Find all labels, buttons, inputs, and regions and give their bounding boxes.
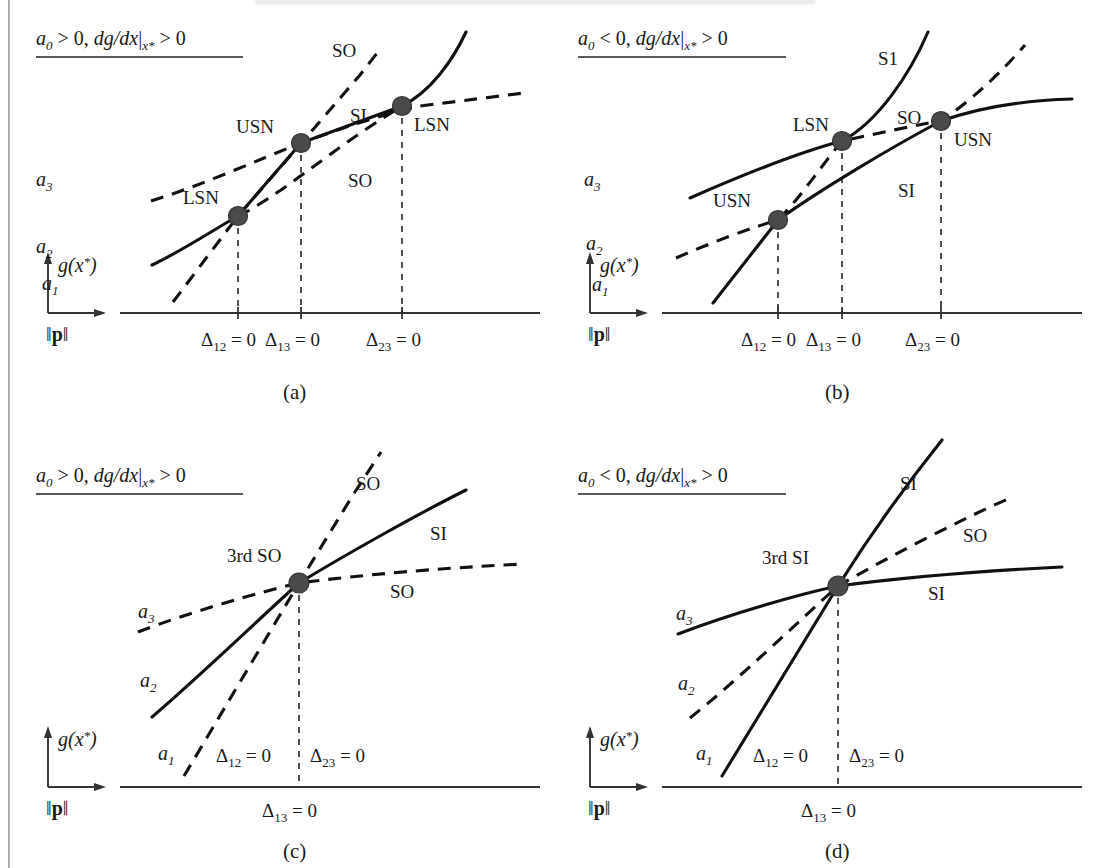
panel-b-annot-usn-left: USN xyxy=(713,190,751,211)
panel-a-annot-si: SI xyxy=(350,105,367,126)
panel-a-tick-23: Δ23 = 0 xyxy=(366,329,421,354)
panel-b: a0 < 0, dg/dx|x* > 0 g(x*) ‖p‖ xyxy=(578,27,1082,404)
panel-d-tick-23: Δ23 = 0 xyxy=(849,745,904,770)
panel-c-curve-a1 xyxy=(184,452,381,776)
panel-d-curves xyxy=(678,440,1062,776)
panel-d-label-a2: a2 xyxy=(678,672,695,698)
panel-d-label-a1: a1 xyxy=(696,742,713,768)
panel-b-label-a2: a2 xyxy=(586,232,603,258)
panel-b-node-lsn xyxy=(833,132,852,151)
panel-a-tick-12: Δ12 = 0 xyxy=(201,329,256,354)
panel-c-caption: (c) xyxy=(283,839,306,863)
panel-b-annot-usn-right: USN xyxy=(954,129,992,150)
panel-d-a0: a xyxy=(578,464,588,486)
panel-a-annot-lsn-right: LSN xyxy=(414,114,450,135)
svg-text:a0 < 0, dg/dx|x* > 0: a0 < 0, dg/dx|x* > 0 xyxy=(578,27,728,53)
panel-d-curve-a3 xyxy=(678,567,1062,634)
panel-d-y-axis-label: g(x*) xyxy=(600,728,639,751)
panel-c-tick-23: Δ23 = 0 xyxy=(310,745,365,770)
panel-c-annot-si: SI xyxy=(430,523,447,544)
panel-a-curve-a3 xyxy=(151,93,524,201)
panel-a-node-lsn-left xyxy=(229,207,248,226)
panel-c: a0 > 0, dg/dx|x* > 0 g(x*) ‖p‖ xyxy=(36,452,540,863)
panel-b-node-usn-right xyxy=(932,112,951,131)
panel-b-a0: a xyxy=(578,27,588,49)
panel-b-curves xyxy=(676,32,1072,303)
panel-c-curve-a3 xyxy=(138,564,524,632)
panel-c-a0-rel: > 0, xyxy=(58,464,89,486)
panel-b-deriv: dg/dx xyxy=(636,27,681,50)
panel-c-annot-so-lower: SO xyxy=(390,581,414,602)
panel-b-tick-13: Δ13 = 0 xyxy=(806,329,861,354)
panel-d-annot-third-si: 3rd SI xyxy=(762,547,809,568)
panel-d-annot-si-lower: SI xyxy=(928,583,945,604)
figure-root: a0 > 0, dg/dx|x* > 0 g(x*) ‖p‖ xyxy=(0,0,1101,868)
panel-c-a0: a xyxy=(36,464,46,486)
panel-d-curve-a2 xyxy=(690,498,1010,718)
panel-d-annot-so: SO xyxy=(963,525,987,546)
panel-b-annot-s1: S1 xyxy=(878,48,898,69)
panel-a-label-a1: a1 xyxy=(42,272,59,298)
panel-a-x-axis-label: ‖p‖ xyxy=(46,323,68,346)
panel-a-node-usn xyxy=(292,134,311,153)
panel-a-node-lsn-right xyxy=(393,97,412,116)
panel-a: a0 > 0, dg/dx|x* > 0 g(x*) ‖p‖ xyxy=(36,27,540,404)
panel-b-curve-a1 xyxy=(713,99,1072,303)
panel-d-annot-si-upper: SI xyxy=(900,473,917,494)
panel-c-y-axis-label: g(x*) xyxy=(58,728,97,751)
panel-b-node-usn-left xyxy=(769,211,788,230)
panel-a-label-a2: a2 xyxy=(36,235,53,261)
panel-d-node-third-si xyxy=(828,576,848,596)
panel-b-caption: (b) xyxy=(825,380,850,404)
panel-a-annot-so-lower: SO xyxy=(348,170,372,191)
panel-d-caption: (d) xyxy=(825,839,850,863)
svg-text:a0 > 0, dg/dx|x* > 0: a0 > 0, dg/dx|x* > 0 xyxy=(36,464,186,490)
panel-d-label-a3: a3 xyxy=(676,602,693,628)
panel-b-x-axis-label: ‖p‖ xyxy=(588,323,610,346)
panel-a-caption: (a) xyxy=(283,380,306,404)
svg-text:a0 > 0, dg/dx|x* > 0: a0 > 0, dg/dx|x* > 0 xyxy=(36,27,186,53)
panel-a-deriv-rel: > 0 xyxy=(160,27,186,49)
panel-c-tick-13: Δ13 = 0 xyxy=(262,800,317,825)
panel-a-annot-so-upper: SO xyxy=(332,40,356,61)
panel-c-deriv: dg/dx xyxy=(94,464,139,487)
panel-c-tick-12: Δ12 = 0 xyxy=(216,745,271,770)
panel-c-axes xyxy=(44,726,540,791)
panel-c-curves xyxy=(138,452,524,776)
panel-d-axes xyxy=(586,726,1082,791)
panel-a-a0-rel: > 0, xyxy=(58,27,89,49)
panel-a-axes xyxy=(44,252,540,317)
panel-b-a0-rel: < 0, xyxy=(600,27,631,49)
panel-d-x-axis-label: ‖p‖ xyxy=(588,797,610,820)
panel-d-a0-rel: < 0, xyxy=(600,464,631,486)
panel-b-tick-12: Δ12 = 0 xyxy=(741,329,796,354)
panel-a-annot-usn: USN xyxy=(236,116,274,137)
panel-d-deriv-rel: > 0 xyxy=(702,464,728,486)
panel-b-annot-si: SI xyxy=(898,180,915,201)
panel-b-axes xyxy=(586,252,1082,317)
panel-a-deriv: dg/dx xyxy=(94,27,139,50)
panel-a-droplines xyxy=(238,106,402,319)
panel-b-droplines xyxy=(778,121,941,319)
panel-c-deriv-rel: > 0 xyxy=(160,464,186,486)
panel-a-y-axis-label: g(x*) xyxy=(58,254,97,277)
panel-c-label-a3: a3 xyxy=(138,600,155,626)
panel-d-tick-12: Δ12 = 0 xyxy=(753,745,808,770)
panel-c-condition: a0 > 0, dg/dx|x* > 0 xyxy=(36,464,243,494)
panel-a-condition: a0 > 0, dg/dx|x* > 0 xyxy=(36,27,243,57)
panel-d-condition: a0 < 0, dg/dx|x* > 0 xyxy=(578,464,786,494)
panel-b-condition: a0 < 0, dg/dx|x* > 0 xyxy=(578,27,786,57)
panel-c-nodes xyxy=(289,573,309,593)
svg-text:a0 < 0, dg/dx|x* > 0: a0 < 0, dg/dx|x* > 0 xyxy=(578,464,728,490)
panel-b-tick-23: Δ23 = 0 xyxy=(905,329,960,354)
panel-c-curve-a2 xyxy=(152,490,466,717)
panel-d-nodes xyxy=(828,576,848,596)
panel-c-annot-so-upper: SO xyxy=(356,473,380,494)
panel-c-annot-third-so: 3rd SO xyxy=(227,545,281,566)
panel-d-tick-13: Δ13 = 0 xyxy=(801,800,856,825)
panel-a-curves xyxy=(151,32,524,302)
panel-a-a0: a xyxy=(36,27,46,49)
panel-d-deriv: dg/dx xyxy=(636,464,681,487)
panel-a-label-a3: a3 xyxy=(36,168,53,194)
panel-b-annot-lsn: LSN xyxy=(793,114,829,135)
